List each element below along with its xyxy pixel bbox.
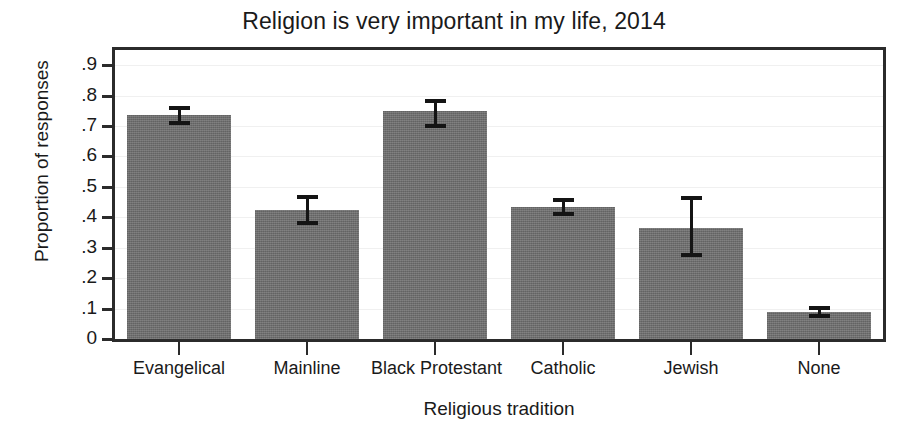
x-axis-tick: [178, 339, 180, 355]
error-bar-cap-lower: [297, 221, 318, 225]
plot-inner: 0.1.2.3.4.5.6.7.8.9: [115, 50, 883, 339]
y-axis-tick-label: 0: [53, 328, 97, 347]
y-axis-tick-label: .1: [53, 298, 97, 317]
y-axis-tick: [102, 308, 115, 311]
chart-figure: Religion is very important in my life, 2…: [0, 0, 908, 438]
bar: [255, 210, 358, 339]
y-axis-tick: [102, 125, 115, 128]
y-axis-tick: [102, 95, 115, 98]
x-axis-tick-label: None: [755, 358, 883, 379]
error-bar-cap-upper: [553, 198, 574, 202]
y-axis-tick: [102, 186, 115, 189]
y-axis-tick-label: .2: [53, 267, 97, 286]
bar: [511, 207, 614, 339]
y-axis-tick-label: .9: [53, 54, 97, 73]
gridline: [115, 65, 883, 66]
x-axis-tick-label: Evangelical: [115, 358, 243, 379]
bar: [383, 111, 486, 339]
error-bar-cap-lower: [553, 212, 574, 216]
error-bar-cap-upper: [809, 306, 830, 310]
x-axis-tick: [434, 339, 436, 355]
y-axis-tick-label: .8: [53, 85, 97, 104]
y-axis-tick: [102, 247, 115, 250]
error-bar-cap-upper: [681, 196, 702, 200]
x-axis-tick-label: Jewish: [627, 358, 755, 379]
x-axis-tick: [818, 339, 820, 355]
y-axis-tick-label: .3: [53, 237, 97, 256]
x-axis-tick-label: Mainline: [243, 358, 371, 379]
y-axis-tick: [102, 338, 115, 341]
error-bar-cap-lower: [809, 314, 830, 318]
y-axis-tick-label: .4: [53, 206, 97, 225]
error-bar-cap-lower: [681, 253, 702, 257]
error-bar: [690, 196, 693, 257]
y-axis-tick: [102, 277, 115, 280]
y-axis-label: Proportion of responses: [31, 31, 53, 291]
error-bar-cap-lower: [169, 121, 190, 125]
x-axis-label: Religious tradition: [112, 398, 886, 420]
error-bar-cap-upper: [297, 195, 318, 199]
bar: [127, 115, 230, 339]
x-axis-tick-label: Catholic: [499, 358, 627, 379]
x-axis-tick-label: Black Protestant: [371, 358, 499, 379]
y-axis-tick: [102, 64, 115, 67]
y-axis-tick-label: .7: [53, 115, 97, 134]
error-bar-cap-upper: [425, 99, 446, 103]
gridline: [115, 96, 883, 97]
x-axis-tick: [306, 339, 308, 355]
y-axis-tick: [102, 155, 115, 158]
error-bar-cap-lower: [425, 124, 446, 128]
x-axis-tick: [562, 339, 564, 355]
y-axis-tick-label: .6: [53, 145, 97, 164]
plot-area: 0.1.2.3.4.5.6.7.8.9: [112, 47, 886, 342]
error-bar-cap-upper: [169, 106, 190, 110]
y-axis-tick: [102, 216, 115, 219]
chart-title: Religion is very important in my life, 2…: [0, 8, 908, 35]
y-axis-tick-label: .5: [53, 176, 97, 195]
x-axis-tick: [690, 339, 692, 355]
